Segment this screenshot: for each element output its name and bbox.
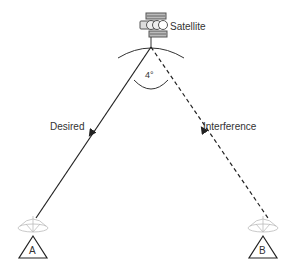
desired-label: Desired xyxy=(50,121,84,132)
angle-arc xyxy=(134,80,168,89)
satellite-icon xyxy=(140,13,168,47)
station-a: A xyxy=(18,216,48,258)
station-b-label: B xyxy=(259,245,266,256)
dish-antenna-icon xyxy=(248,216,278,232)
diagram-canvas: Satellite 4° Desired Interference A B xyxy=(0,0,296,275)
desired-path xyxy=(36,47,151,218)
dish-antenna-icon xyxy=(18,216,48,232)
satellite-label: Satellite xyxy=(170,21,206,32)
station-a-label: A xyxy=(29,245,36,256)
beam-arc xyxy=(118,48,184,58)
interference-label: Interference xyxy=(203,121,257,132)
station-b: B xyxy=(248,216,278,258)
angle-label: 4° xyxy=(145,70,154,80)
interference-path xyxy=(151,47,268,218)
desired-arrow-icon xyxy=(91,132,92,134)
